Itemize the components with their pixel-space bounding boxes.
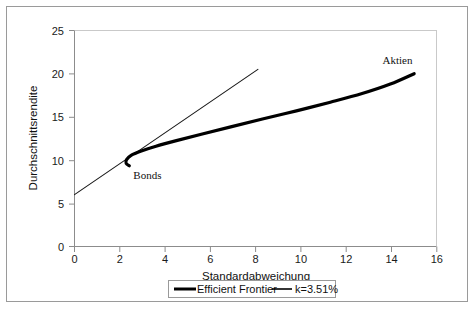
y-tick-label-5: 5 [58, 198, 64, 210]
series-curve-efficient-frontier [126, 74, 414, 166]
x-tick-label-6: 6 [207, 253, 213, 265]
y-axis-tick-labels: 25 20 15 10 5 0 [52, 25, 64, 253]
chart-legend: Efficient Frontier k=3.51% [169, 281, 339, 298]
y-axis-title: Durchschnittsrendite [27, 86, 39, 191]
x-tick-label-14: 14 [385, 253, 397, 265]
series-line-cml [75, 69, 258, 194]
x-tick-label-4: 4 [162, 253, 168, 265]
annotation-bonds: Bonds [133, 169, 161, 181]
legend-label-efficient-frontier: Efficient Frontier [197, 283, 277, 295]
x-tick-label-8: 8 [253, 253, 259, 265]
x-axis-tick-labels: 0 2 4 6 8 10 12 14 16 [71, 253, 442, 265]
y-tick-label-10: 10 [52, 155, 64, 167]
chart-figure: 25 20 15 10 5 0 0 2 4 6 8 10 12 [0, 0, 476, 312]
x-tick-label-16: 16 [431, 253, 443, 265]
x-tick-label-10: 10 [295, 253, 307, 265]
x-tick-label-12: 12 [340, 253, 352, 265]
y-tick-label-20: 20 [52, 68, 64, 80]
chart-canvas: 25 20 15 10 5 0 0 2 4 6 8 10 12 [0, 0, 476, 312]
y-tick-label-0: 0 [58, 241, 64, 253]
legend-label-k: k=3.51% [295, 283, 338, 295]
y-axis-ticks [69, 31, 74, 247]
y-tick-label-25: 25 [52, 25, 64, 37]
x-tick-label-2: 2 [117, 253, 123, 265]
x-tick-label-0: 0 [71, 253, 77, 265]
x-axis-ticks [75, 247, 437, 253]
y-tick-label-15: 15 [52, 111, 64, 123]
annotation-aktien: Aktien [382, 54, 412, 66]
